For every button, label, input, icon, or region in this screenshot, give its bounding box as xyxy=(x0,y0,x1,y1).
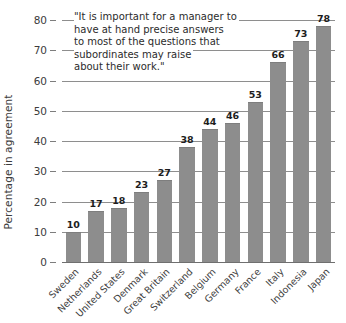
quote-annotation: "It is important for a manager tohave at… xyxy=(74,11,246,74)
y-axis-tick-label: 30 xyxy=(0,165,56,177)
y-axis-tick-label: 20 xyxy=(0,196,56,208)
y-axis-tick-value: 10 xyxy=(34,226,47,238)
bar[interactable] xyxy=(225,123,240,262)
y-axis-tick-label: 50 xyxy=(0,105,56,117)
bar-slot: 66 xyxy=(267,20,290,262)
bar-value-label: 17 xyxy=(85,198,108,209)
bar-value-label: 73 xyxy=(290,28,313,39)
bar-slot: 78 xyxy=(312,20,335,262)
y-axis-tick-label: 60 xyxy=(0,75,56,87)
bar[interactable] xyxy=(179,147,194,262)
y-axis-tick-value: 80 xyxy=(34,14,47,26)
bar-value-label: 10 xyxy=(62,219,85,230)
y-axis-tick-value: 40 xyxy=(34,135,47,147)
y-axis-tick-mark xyxy=(50,81,56,82)
bar-value-label: 53 xyxy=(244,89,267,100)
y-axis-tick-value: 0 xyxy=(40,256,47,268)
bar-slot: 73 xyxy=(290,20,313,262)
y-axis-tick-mark xyxy=(50,50,56,51)
y-axis-tick-value: 60 xyxy=(34,75,47,87)
y-axis-tick-mark xyxy=(50,171,56,172)
bar-slot: 53 xyxy=(244,20,267,262)
y-axis-tick-value: 50 xyxy=(34,105,47,117)
quote-line: subordinates may raise xyxy=(74,49,193,62)
y-axis-tick-value: 30 xyxy=(34,165,47,177)
bar-value-label: 44 xyxy=(199,116,222,127)
y-axis-tick-label: 0 xyxy=(0,256,56,268)
bar[interactable] xyxy=(66,232,81,262)
bar-value-label: 78 xyxy=(312,13,335,24)
x-axis-labels: SwedenNetherlandsUnited StatesDenmarkGre… xyxy=(62,264,335,323)
y-axis-tick-mark xyxy=(50,141,56,142)
bar[interactable] xyxy=(111,208,126,262)
y-axis-tick-label: 80 xyxy=(0,14,56,26)
y-axis-tick-label: 10 xyxy=(0,226,56,238)
quote-line: about their work." xyxy=(74,61,167,74)
y-axis-tick-mark xyxy=(50,232,56,233)
y-axis-tick-mark xyxy=(50,20,56,21)
y-axis-tick-mark xyxy=(50,111,56,112)
bar[interactable] xyxy=(293,41,308,262)
bar-value-label: 23 xyxy=(130,179,153,190)
y-axis-tick-value: 70 xyxy=(34,44,47,56)
bar[interactable] xyxy=(134,192,149,262)
bar[interactable] xyxy=(270,62,285,262)
bar-value-label: 46 xyxy=(221,110,244,121)
bar-value-label: 18 xyxy=(108,195,131,206)
bar-value-label: 38 xyxy=(176,134,199,145)
quote-line: to most of the questions that xyxy=(74,36,222,49)
y-axis-tick-label: 40 xyxy=(0,135,56,147)
quote-line: have at hand precise answers xyxy=(74,24,226,37)
bar[interactable] xyxy=(157,180,172,262)
bar[interactable] xyxy=(248,102,263,262)
y-axis-tick-value: 20 xyxy=(34,196,47,208)
bar-chart: Percentage in agreement 0102030405060708… xyxy=(0,0,346,323)
bar-value-label: 27 xyxy=(153,167,176,178)
y-axis-tick-mark xyxy=(50,202,56,203)
bar-value-label: 66 xyxy=(267,49,290,60)
y-axis-tick-label: 70 xyxy=(0,44,56,56)
gridline xyxy=(62,262,335,263)
quote-line: "It is important for a manager to xyxy=(74,11,239,24)
y-axis-tick-mark xyxy=(50,262,56,263)
bar[interactable] xyxy=(88,211,103,262)
bar[interactable] xyxy=(316,26,331,262)
bar[interactable] xyxy=(202,129,217,262)
x-axis-label: Japan xyxy=(305,266,332,293)
